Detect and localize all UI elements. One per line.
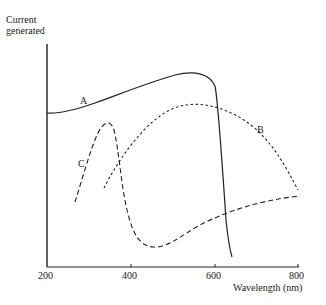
x-tick-800: 800	[289, 270, 304, 281]
curve-a-label: A	[80, 95, 87, 106]
curve-c-label: C	[78, 158, 85, 169]
x-tick-200: 200	[38, 270, 53, 281]
curve-b-label: B	[257, 124, 264, 135]
curve-b	[104, 104, 298, 190]
curve-a	[47, 73, 232, 257]
x-tick-400: 400	[122, 270, 137, 281]
curve-c	[75, 123, 300, 247]
x-tick-600: 600	[206, 270, 221, 281]
x-axis-label: Wavelength (nm)	[233, 282, 302, 293]
chart-plot	[0, 0, 326, 305]
